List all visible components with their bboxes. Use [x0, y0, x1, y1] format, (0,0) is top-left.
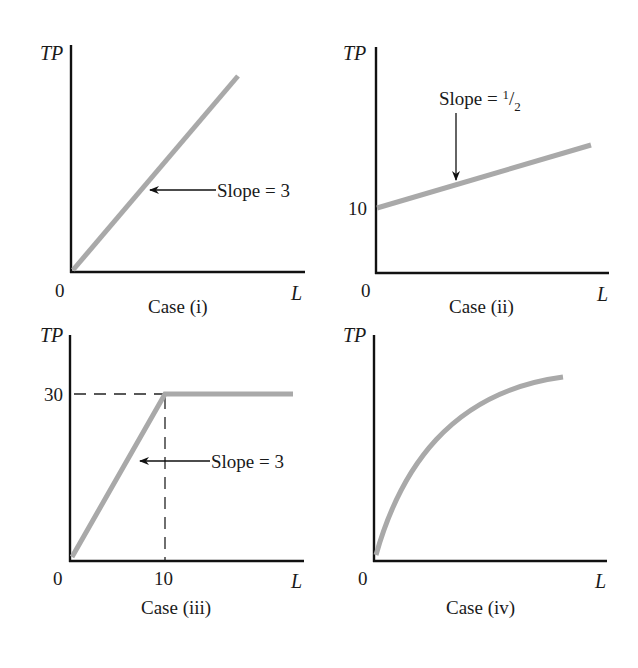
slope-denominator: 2 — [514, 99, 521, 114]
tp-line — [377, 145, 591, 208]
origin-label: 0 — [55, 280, 65, 301]
panel-caption: Case (ii) — [449, 296, 514, 318]
x-tick-10: 10 — [154, 568, 173, 589]
origin-label: 0 — [53, 568, 63, 589]
tp-line — [73, 76, 238, 270]
y-tick-30: 30 — [44, 384, 63, 405]
slope-annotation: Slope = 1/2 — [439, 87, 521, 114]
panel-case-iv: TP 0 L Case (iv) — [343, 324, 607, 619]
panel-caption: Case (i) — [148, 296, 208, 318]
production-function-figure: Slope = 3 TP 0 L Case (i) Slope = 1/2 TP… — [0, 0, 638, 668]
slope-annotation: Slope = 3 — [217, 180, 290, 201]
slope-prefix: Slope = — [439, 88, 503, 109]
y-axis-label: TP — [40, 324, 63, 346]
origin-label: 0 — [358, 568, 368, 589]
y-tick-10: 10 — [348, 198, 367, 219]
panel-case-i: Slope = 3 TP 0 L Case (i) — [40, 42, 305, 318]
panel-case-ii: Slope = 1/2 TP 10 0 L Case (ii) — [343, 42, 609, 318]
slope-annotation: Slope = 3 — [211, 451, 284, 472]
tp-line — [72, 394, 293, 557]
y-axis-label: TP — [343, 42, 366, 64]
y-axis-label: TP — [343, 324, 366, 346]
origin-label: 0 — [361, 280, 371, 301]
tp-curve — [376, 377, 563, 555]
panel-case-iii: Slope = 3 TP 30 0 10 L Case (iii) — [40, 324, 304, 619]
x-axis-label: L — [290, 282, 302, 304]
y-axis-label: TP — [40, 42, 63, 64]
panel-caption: Case (iii) — [141, 597, 211, 619]
x-axis-label: L — [594, 570, 606, 592]
panel-caption: Case (iv) — [446, 597, 515, 619]
x-axis-label: L — [290, 570, 302, 592]
x-axis-label: L — [596, 283, 608, 305]
